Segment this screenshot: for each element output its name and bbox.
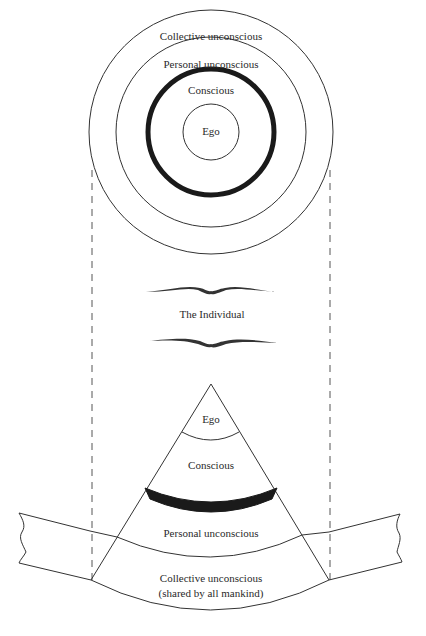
label-ego-section: Ego [202, 413, 220, 425]
label-ego-top: Ego [202, 125, 220, 137]
wing-right-bottom [329, 562, 402, 580]
cone-right-edge [211, 384, 329, 580]
label-collective-unconscious-top: Collective unconscious [160, 30, 262, 42]
wing-right-top [302, 514, 400, 535]
label-personal-unconscious-section: Personal unconscious [163, 527, 258, 539]
label-personal-unconscious-top: Personal unconscious [163, 58, 258, 70]
wing-left-top [19, 513, 117, 537]
label-collective-unconscious-section: Collective unconscious [160, 572, 262, 584]
wing-left-bottom [19, 563, 91, 580]
wing-left-break [19, 513, 26, 563]
cone-left-edge [91, 384, 211, 580]
arc-ego [182, 432, 239, 440]
label-conscious-top: Conscious [188, 84, 234, 96]
wing-right-break [397, 514, 402, 562]
psyche-diagram: Collective unconscious Personal unconsci… [0, 0, 426, 636]
band-conscious-boundary [145, 488, 277, 512]
label-collective-sublabel: (shared by all mankind) [159, 587, 264, 600]
title-the-individual: The Individual [179, 308, 244, 320]
projection-lines [92, 170, 330, 580]
swash-top [146, 287, 278, 294]
swash-bottom [146, 339, 278, 348]
label-conscious-section: Conscious [188, 459, 234, 471]
